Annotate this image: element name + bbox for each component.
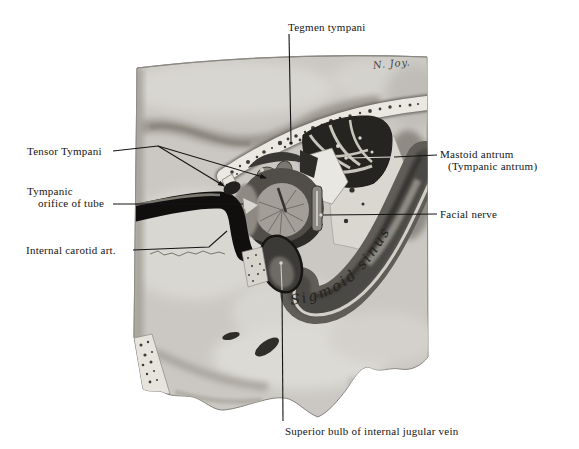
label-tympanic-orifice-line1: Tympanic xyxy=(27,185,73,197)
label-tegmen-tympani: Tegmen tympani xyxy=(288,21,366,33)
bone-plate: Sigmoid sinus N. Joy. xyxy=(117,56,450,417)
label-internal-carotid: Internal carotid art. xyxy=(26,244,116,256)
label-superior-bulb: Superior bulb of internal jugular vein xyxy=(285,425,459,437)
label-facial-nerve: Facial nerve xyxy=(440,208,497,220)
label-mastoid-antrum-line1: Mastoid antrum xyxy=(440,148,513,160)
anatomical-figure: Sigmoid sinus N. Joy. xyxy=(0,0,579,449)
label-tensor-tympani: Tensor Tympani xyxy=(27,145,102,157)
label-mastoid-antrum-line2: (Tympanic antrum) xyxy=(448,160,537,172)
figure-plate-svg: Sigmoid sinus N. Joy. xyxy=(0,0,579,449)
label-tympanic-orifice-line2: orifice of tube xyxy=(38,197,104,209)
facial-nerve-canal xyxy=(312,186,322,231)
